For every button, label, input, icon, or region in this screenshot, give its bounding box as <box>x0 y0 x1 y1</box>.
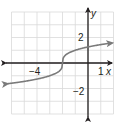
y-tick-label-neg2: −2 <box>73 86 85 97</box>
x-tick-label-1: 1 <box>98 66 104 77</box>
y-tick-label-2: 2 <box>78 32 84 43</box>
y-axis-label: y <box>90 8 97 19</box>
function-graph: y 2 −2 −4 1 x <box>0 0 122 125</box>
x-tick-label-neg4: −4 <box>29 66 41 77</box>
x-axis-label: x <box>105 66 112 77</box>
